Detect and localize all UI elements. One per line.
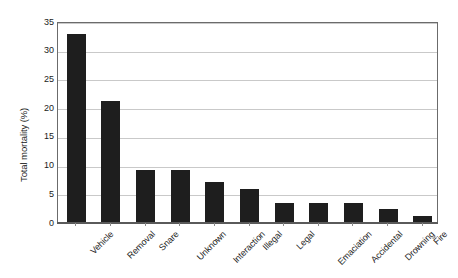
bar	[309, 203, 328, 222]
x-axis-tick-label: Drowning	[403, 229, 436, 262]
x-axis-tick-label: Vehicle	[89, 229, 116, 256]
bar	[240, 189, 259, 222]
x-axis-line	[57, 222, 438, 224]
y-axis-tick-label: 25	[32, 75, 54, 84]
bar-chart: Total mortality (%) 05101520253035 Vehic…	[0, 0, 458, 278]
y-axis-tick-label: 0	[32, 219, 54, 228]
bar	[101, 101, 120, 222]
x-axis-tick	[352, 223, 353, 226]
x-axis-tick-label: Fire	[431, 229, 449, 247]
bar	[275, 203, 294, 222]
x-axis-tick	[422, 223, 423, 226]
x-axis-tick-label: Accidental	[369, 229, 405, 265]
x-axis-tick	[75, 223, 76, 226]
x-axis-tick	[110, 223, 111, 226]
x-axis-tick	[145, 223, 146, 226]
y-axis-tick-label: 10	[32, 161, 54, 170]
bar	[379, 209, 398, 222]
bar	[205, 182, 224, 222]
bar	[171, 170, 190, 222]
x-axis-tick-label: Unknown	[195, 229, 228, 262]
y-axis-tick-labels: 05101520253035	[28, 0, 54, 278]
y-axis-tick-label: 15	[32, 132, 54, 141]
x-axis-tick	[318, 223, 319, 226]
x-axis-tick	[179, 223, 180, 226]
x-axis-tick-label: Interaction	[231, 229, 267, 265]
bar	[136, 170, 155, 222]
x-axis-tick	[249, 223, 250, 226]
x-axis-tick-label: Removal	[125, 229, 157, 261]
x-axis-tick	[214, 223, 215, 226]
x-axis-tick	[387, 223, 388, 226]
bar	[67, 34, 86, 222]
plot-area	[57, 22, 438, 223]
y-axis-tick-label: 30	[32, 46, 54, 55]
y-axis-tick-label: 35	[32, 18, 54, 27]
x-axis-tick-label: Emaciation	[336, 229, 374, 267]
gridline	[58, 80, 437, 81]
gridline	[58, 52, 437, 53]
y-axis-tick-label: 5	[32, 190, 54, 199]
x-axis-tick-label: Snare	[156, 229, 180, 253]
y-axis-tick-label: 20	[32, 104, 54, 113]
x-axis-tick-label: Legal	[294, 229, 316, 251]
bar	[344, 203, 363, 222]
gridline	[58, 23, 437, 24]
x-axis-tick	[283, 223, 284, 226]
